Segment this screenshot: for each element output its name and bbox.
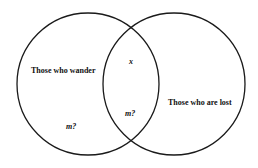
label-those-who-are-lost: Those who are lost xyxy=(168,98,232,107)
set-circle-wanderers xyxy=(17,13,159,155)
venn-diagram: Those who wander m? x m? Those who are l… xyxy=(0,0,258,168)
label-intersection-m: m? xyxy=(125,109,135,118)
set-circle-lost xyxy=(103,13,245,155)
label-intersection-x: x xyxy=(128,57,133,66)
label-left-region-m: m? xyxy=(66,122,76,131)
label-those-who-wander: Those who wander xyxy=(31,66,96,75)
